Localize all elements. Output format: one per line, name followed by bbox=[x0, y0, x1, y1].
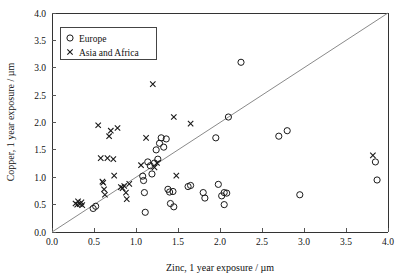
x-tick-label: 3.5 bbox=[340, 237, 352, 247]
data-point-circle bbox=[142, 209, 148, 215]
data-point-circle bbox=[161, 144, 167, 150]
data-point-cross bbox=[174, 173, 179, 178]
series-europe bbox=[90, 59, 380, 215]
x-tick-label: 0.5 bbox=[88, 237, 100, 247]
data-point-cross bbox=[111, 173, 116, 178]
legend-label-asia-and-africa: Asia and Africa bbox=[79, 48, 139, 58]
data-point-circle bbox=[149, 171, 155, 177]
data-point-circle bbox=[221, 202, 227, 208]
data-point-cross bbox=[143, 135, 148, 140]
scatter-plot-figure: 0.00.51.01.52.02.53.03.54.0 0.00.51.01.5… bbox=[0, 0, 402, 280]
y-tick-label: 4.0 bbox=[34, 9, 46, 19]
x-tick-label: 0.0 bbox=[46, 237, 58, 247]
x-tick-label: 2.5 bbox=[256, 237, 268, 247]
data-point-circle bbox=[372, 159, 378, 165]
data-point-cross bbox=[188, 121, 193, 126]
x-axis-ticks: 0.00.51.01.52.02.53.03.54.0 bbox=[46, 228, 394, 247]
data-point-cross bbox=[106, 133, 111, 138]
data-point-cross bbox=[98, 155, 103, 160]
data-point-circle bbox=[374, 177, 380, 183]
data-series-layer bbox=[73, 59, 380, 215]
data-point-circle bbox=[215, 181, 221, 187]
data-point-circle bbox=[153, 147, 159, 153]
data-point-circle bbox=[202, 195, 208, 201]
y-axis-title: Copper, 1 year exposure / µm bbox=[5, 62, 16, 181]
data-point-cross bbox=[108, 128, 113, 133]
x-tick-label: 2.0 bbox=[214, 237, 226, 247]
y-tick-label: 2.0 bbox=[34, 118, 46, 128]
data-point-cross bbox=[101, 187, 106, 192]
y-tick-label: 2.5 bbox=[34, 91, 46, 101]
data-point-circle bbox=[140, 177, 146, 183]
data-point-cross bbox=[138, 163, 143, 168]
x-tick-label: 1.0 bbox=[130, 237, 142, 247]
data-point-cross bbox=[171, 114, 176, 119]
data-point-circle bbox=[276, 133, 282, 139]
data-point-circle bbox=[213, 135, 219, 141]
data-point-circle bbox=[284, 128, 290, 134]
data-point-cross bbox=[105, 155, 110, 160]
data-point-cross bbox=[370, 153, 375, 158]
y-tick-label: 3.0 bbox=[34, 63, 46, 73]
y-tick-label: 3.5 bbox=[34, 36, 46, 46]
plot-canvas: 0.00.51.01.52.02.53.03.54.0 0.00.51.01.5… bbox=[0, 0, 402, 280]
data-point-cross bbox=[115, 125, 120, 130]
data-point-cross bbox=[124, 196, 129, 201]
x-tick-label: 3.0 bbox=[298, 237, 310, 247]
y-tick-label: 0.5 bbox=[34, 200, 46, 210]
y-tick-label: 1.5 bbox=[34, 145, 46, 155]
y-axis-ticks: 0.00.51.01.52.02.53.03.54.0 bbox=[34, 9, 56, 238]
data-point-cross bbox=[96, 123, 101, 128]
x-tick-label: 1.5 bbox=[172, 237, 184, 247]
data-point-cross bbox=[150, 81, 155, 86]
data-point-circle bbox=[297, 192, 303, 198]
x-axis-title: Zinc, 1 year exposure / µm bbox=[166, 262, 274, 273]
data-point-circle bbox=[238, 59, 244, 65]
data-point-cross bbox=[123, 190, 128, 195]
chart-legend: EuropeAsia and Africa bbox=[60, 27, 156, 59]
legend-label-europe: Europe bbox=[79, 34, 106, 44]
data-point-circle bbox=[141, 189, 147, 195]
y-tick-label: 1.0 bbox=[34, 173, 46, 183]
y-tick-label: 0.0 bbox=[34, 228, 46, 238]
data-point-cross bbox=[102, 192, 107, 197]
data-point-circle bbox=[140, 173, 146, 179]
data-point-cross bbox=[111, 156, 116, 161]
x-tick-label: 4.0 bbox=[382, 237, 394, 247]
